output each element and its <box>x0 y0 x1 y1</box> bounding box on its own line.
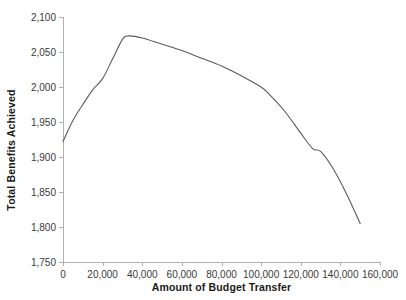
x-tick-label: 80,000 <box>206 269 237 280</box>
x-tick-mark <box>301 262 302 266</box>
x-tick-mark <box>182 262 183 266</box>
line-chart: Total Benefits Achieved 1,7501,8001,8501… <box>0 0 406 300</box>
x-tick-mark <box>380 262 381 266</box>
x-tick-mark <box>63 262 64 266</box>
x-tick-label: 160,000 <box>362 269 398 280</box>
y-tick-label: 1,750 <box>31 257 56 268</box>
y-tick-mark <box>59 192 63 193</box>
x-tick-mark <box>222 262 223 266</box>
y-tick-mark <box>59 87 63 88</box>
y-tick-label: 1,900 <box>31 152 56 163</box>
x-tick-mark <box>261 262 262 266</box>
data-series-line <box>63 17 380 262</box>
x-tick-mark <box>340 262 341 266</box>
x-tick-mark <box>142 262 143 266</box>
x-axis-title: Amount of Budget Transfer <box>63 281 380 293</box>
x-tick-label: 20,000 <box>87 269 118 280</box>
y-tick-label: 1,850 <box>31 187 56 198</box>
x-tick-label: 140,000 <box>322 269 358 280</box>
y-tick-mark <box>59 52 63 53</box>
plot-area: 1,7501,8001,8501,9001,9502,0002,0502,100… <box>63 17 380 262</box>
x-tick-label: 40,000 <box>127 269 158 280</box>
y-tick-label: 2,100 <box>31 12 56 23</box>
y-tick-mark <box>59 17 63 18</box>
y-tick-mark <box>59 227 63 228</box>
y-tick-label: 2,050 <box>31 47 56 58</box>
x-tick-label: 100,000 <box>243 269 279 280</box>
y-axis-title: Total Benefits Achieved <box>0 0 22 300</box>
y-tick-mark <box>59 122 63 123</box>
y-tick-label: 2,000 <box>31 82 56 93</box>
x-tick-label: 60,000 <box>167 269 198 280</box>
x-tick-label: 120,000 <box>283 269 319 280</box>
y-tick-mark <box>59 157 63 158</box>
y-tick-label: 1,950 <box>31 117 56 128</box>
x-tick-label: 0 <box>60 269 66 280</box>
y-tick-label: 1,800 <box>31 222 56 233</box>
x-tick-mark <box>103 262 104 266</box>
